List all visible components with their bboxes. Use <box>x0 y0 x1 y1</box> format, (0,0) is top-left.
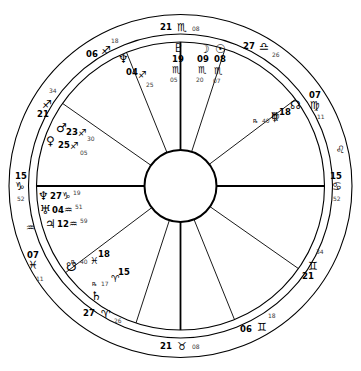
saturn-glyph: ♄ <box>91 290 102 302</box>
cusp-5-minutes: 18 <box>268 313 276 319</box>
ascendant-sign-glyph: ♑ <box>15 181 25 192</box>
south-node-sign-glyph: ♓ <box>90 256 99 266</box>
pluto-degree: 19 <box>172 55 184 64</box>
venus-minutes: 05 <box>80 150 88 156</box>
aquarius-ring-marker: ♒ <box>26 223 35 233</box>
saturn-cap-minutes: 19 <box>73 190 81 196</box>
midheaven-minutes: 08 <box>192 26 200 32</box>
house-line-5 <box>194 219 234 319</box>
mercury-minutes: 40 <box>262 118 270 124</box>
house-line-3 <box>136 220 169 323</box>
house-division-lines <box>37 42 325 330</box>
mars-degree: 23 <box>66 128 78 137</box>
south-node-retrograde-icon: ℞ <box>71 260 76 266</box>
cusp-3-sign-glyph: ♈ <box>101 309 111 320</box>
venus-sign-glyph: ♐ <box>70 141 79 151</box>
venus-degree: 25 <box>58 141 70 150</box>
pluto-minutes: 05 <box>170 77 178 83</box>
neptune-minutes: 25 <box>146 82 154 88</box>
south-node-degree: 18 <box>98 250 110 259</box>
neptune-sign-glyph: ♐ <box>138 70 147 80</box>
saturn-minutes: 17 <box>101 281 109 287</box>
pluto-sign-glyph: ♏ <box>172 65 181 75</box>
cusp-9-sign-glyph: ♎ <box>259 41 269 52</box>
saturn-cap-degree: 27 <box>50 192 62 201</box>
imum-coeli-degree: 21 <box>160 342 172 351</box>
mars-sign-glyph: ♐ <box>78 128 87 138</box>
cusp-6-degree: 21 <box>302 272 314 281</box>
north-node-glyph: ☊ <box>290 99 301 111</box>
saturn-sign-glyph: ♈ <box>111 274 120 284</box>
cusp-9-minutes: 26 <box>272 52 280 58</box>
sun-sign-glyph: ♏ <box>214 66 223 76</box>
mercury-sign-glyph: ♍ <box>271 111 280 121</box>
midheaven-degree: 21 <box>160 23 172 32</box>
mercury-retrograde-icon: ℞ <box>253 119 258 125</box>
cusp-5-sign-glyph: ♊ <box>257 322 267 333</box>
saturn-cap-sign-glyph: ♑ <box>62 191 71 201</box>
jupiter-degree: 12 <box>57 220 69 229</box>
cusp-3-degree: 27 <box>83 309 95 318</box>
mars-minutes: 30 <box>87 136 95 142</box>
imum-coeli-sign-glyph: ♉ <box>177 341 187 352</box>
jupiter-glyph: ♃ <box>45 218 56 230</box>
uranus-sign-glyph: ♒ <box>64 205 73 215</box>
cusp-12-minutes: 34 <box>49 88 57 94</box>
astrology-chart-wheel: 15♑5207♓1127♈2621♉0806♊1821♊3415♋5207♍11… <box>0 0 361 371</box>
moon-sign-glyph: ♏ <box>198 65 207 75</box>
ascendant-minutes: 52 <box>17 196 25 202</box>
midheaven-sign-glyph: ♏ <box>177 22 187 33</box>
cusp-11-minutes: 18 <box>111 38 119 44</box>
moon-degree: 09 <box>197 55 209 64</box>
saturn-cap-glyph: ♆ <box>38 190 49 202</box>
cusp-3-minutes: 26 <box>114 318 122 324</box>
pluto-glyph: ♇ <box>173 42 184 54</box>
uranus-minutes: 51 <box>75 204 83 210</box>
cusp-6-minutes: 34 <box>316 249 324 255</box>
sun-minutes: 07 <box>213 78 221 84</box>
leo-ring-marker: ♌ <box>336 145 345 155</box>
sun-degree: 08 <box>214 55 226 64</box>
uranus-degree: 04 <box>52 206 64 215</box>
cusp-12-sign-glyph: ♐ <box>42 99 52 110</box>
venus-glyph: ♀ <box>46 135 55 147</box>
cusp-11-sign-glyph: ♐ <box>101 45 111 56</box>
mercury-degree: 18 <box>279 108 291 117</box>
neptune-glyph: ♆ <box>118 53 129 65</box>
cusp-9-degree: 27 <box>243 42 255 51</box>
jupiter-sign-glyph: ♒ <box>69 219 78 229</box>
cusp-11-degree: 06 <box>86 50 98 59</box>
cusp-5-degree: 06 <box>240 325 252 334</box>
descendant-minutes: 52 <box>333 196 341 202</box>
saturn-retrograde-icon: ℞ <box>92 282 97 288</box>
jupiter-minutes: 59 <box>80 218 88 224</box>
cusp-8-sign-glyph: ♍ <box>310 100 320 111</box>
cusp-8-minutes: 11 <box>317 114 325 120</box>
cusp-2-minutes: 11 <box>36 276 44 282</box>
inner-hub-circle <box>145 150 217 222</box>
moon-minutes: 20 <box>196 77 204 83</box>
house-line-6 <box>210 207 298 269</box>
uranus-glyph: ♅ <box>40 204 51 216</box>
cusp-6-sign-glyph: ♊ <box>308 261 318 272</box>
cusp-2-sign-glyph: ♓ <box>28 260 38 271</box>
cusp-12-degree: 21 <box>37 110 49 119</box>
imum-coeli-minutes: 08 <box>192 344 200 350</box>
descendant-sign-glyph: ♋ <box>332 181 342 192</box>
house-line-2 <box>66 208 152 273</box>
south-node-minutes: 40 <box>80 259 88 265</box>
neptune-degree: 04 <box>126 68 138 77</box>
